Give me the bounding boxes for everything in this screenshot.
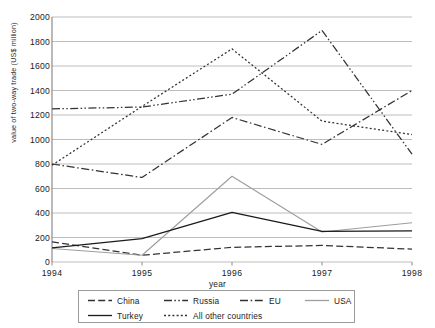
legend-label: EU: [269, 296, 281, 306]
line-chart: value of two-way trade (US$ million) 020…: [0, 0, 435, 328]
legend-swatch-turkey-icon: [87, 311, 113, 320]
legend-label: China: [117, 296, 139, 306]
legend-item-all-other-countries[interactable]: All other countries: [163, 308, 262, 323]
legend-swatch-eu-icon: [239, 296, 265, 305]
legend-label: Turkey: [117, 311, 143, 321]
gridlines: [52, 17, 412, 262]
series-line-turkey: [52, 212, 412, 248]
legend-item-eu[interactable]: EU: [239, 293, 281, 308]
legend-swatch-china-icon: [87, 296, 113, 305]
legend-item-china[interactable]: China: [87, 293, 139, 308]
legend-item-turkey[interactable]: Turkey: [87, 308, 143, 323]
legend-item-usa[interactable]: USA: [304, 293, 352, 308]
legend-label: Russia: [193, 296, 219, 306]
legend-swatch-usa-icon: [304, 296, 330, 305]
legend-swatch-russia-icon: [163, 296, 189, 305]
series-line-china: [52, 242, 412, 255]
legend-label: USA: [334, 296, 352, 306]
legend-item-russia[interactable]: Russia: [163, 293, 219, 308]
chart-legend: ChinaRussiaEUUSATurkeyAll other countrie…: [78, 290, 355, 323]
legend-swatch-all-other-countries-icon: [163, 311, 189, 320]
legend-label: All other countries: [193, 311, 262, 321]
series-group: [52, 30, 412, 255]
x-axis-title: year: [0, 279, 435, 289]
